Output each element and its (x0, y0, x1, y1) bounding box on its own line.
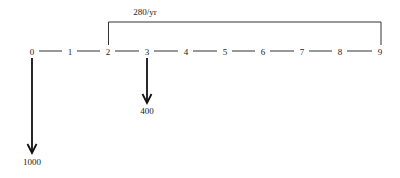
period-label-7: 7 (300, 47, 305, 57)
annuity-label: 280/yr (133, 7, 157, 17)
period-label-6: 6 (261, 47, 266, 57)
period-label-8: 8 (338, 47, 343, 57)
period-label-5: 5 (223, 47, 228, 57)
cash-flow-amount: 1000 (23, 157, 42, 167)
period-label-4: 4 (184, 47, 189, 57)
cash-flow-arrow-400: 400 (140, 58, 154, 116)
cash-flow-diagram: 0 1 2 3 4 5 6 7 8 9 280/yr 1000 400 (0, 0, 400, 178)
bracket-line (109, 22, 382, 45)
period-label-3: 3 (145, 47, 150, 57)
period-labels: 0 1 2 3 4 5 6 7 8 9 (30, 47, 383, 57)
period-label-2: 2 (106, 47, 111, 57)
annuity-bracket: 280/yr (109, 7, 382, 45)
period-label-1: 1 (68, 47, 73, 57)
period-label-0: 0 (30, 47, 35, 57)
cash-flow-amount: 400 (140, 106, 154, 116)
period-label-9: 9 (378, 47, 383, 57)
cash-flow-arrow-1000: 1000 (23, 58, 42, 167)
